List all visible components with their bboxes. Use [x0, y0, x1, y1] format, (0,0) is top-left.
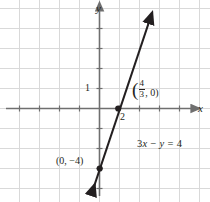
equation-right-side: = 4 — [165, 138, 183, 149]
x-intercept-annotation: ( 4 3 , 0) — [132, 79, 159, 99]
x-axis-label: x — [198, 103, 203, 114]
coordinate-plane — [0, 0, 210, 202]
y-axis-label: y — [96, 3, 101, 14]
left-paren: ( — [132, 79, 138, 98]
fraction-four-thirds: 4 3 — [138, 79, 145, 99]
x-intercept-annotation-tail: , 0) — [145, 88, 158, 99]
x-tick-label-2: 2 — [120, 112, 125, 122]
fraction-numerator: 4 — [140, 79, 145, 88]
point-y-intercept — [97, 165, 103, 171]
grid-lines — [0, 0, 210, 202]
y-intercept-annotation: (0, −4) — [56, 156, 83, 166]
graph-figure: y x 1 2 ( 4 3 , 0) (0, −4) 3x − y = 4 — [0, 0, 210, 202]
equation-minus-sign: − — [148, 138, 160, 149]
y-tick-label-1: 1 — [85, 83, 90, 93]
fraction-denominator: 3 — [140, 90, 145, 99]
equation-label: 3x − y = 4 — [137, 139, 182, 150]
